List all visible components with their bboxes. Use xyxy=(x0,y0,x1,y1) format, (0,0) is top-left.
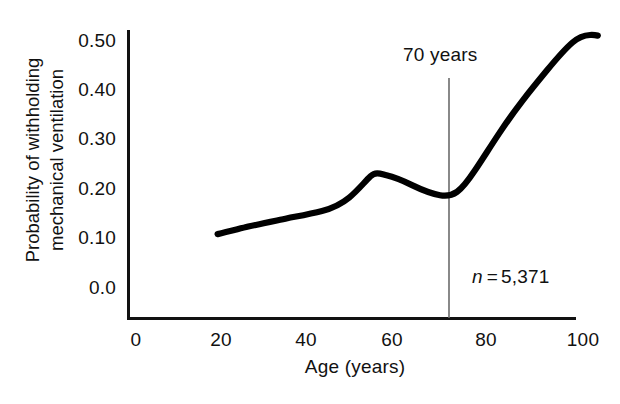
x-tick-label-60: 60 xyxy=(381,330,403,349)
y-axis-title: Probability of withholding mechanical ve… xyxy=(12,0,78,320)
x-tick-label-0: 0 xyxy=(131,330,142,349)
x-tick-label-40: 40 xyxy=(295,330,317,349)
x-tick-label-80: 80 xyxy=(475,330,497,349)
y-axis-title-line-2: mechanical ventilation xyxy=(45,58,69,263)
x-tick-label-20: 20 xyxy=(210,330,232,349)
sample-size-value: 5,371 xyxy=(501,266,550,287)
sample-size-symbol: n xyxy=(472,266,483,287)
chart-figure: 0.50 0.40 0.30 0.20 0.10 0.0 0 20 40 60 … xyxy=(0,0,620,404)
sample-size-annotation: n=5,371 xyxy=(472,266,550,288)
sample-size-operator: = xyxy=(487,266,498,287)
x-tick-label-100: 100 xyxy=(567,330,599,349)
x-axis-title: Age (years) xyxy=(305,356,405,378)
y-axis-title-line-1: Probability of withholding xyxy=(21,58,45,263)
age-70-annotation-label: 70 years xyxy=(403,44,477,66)
